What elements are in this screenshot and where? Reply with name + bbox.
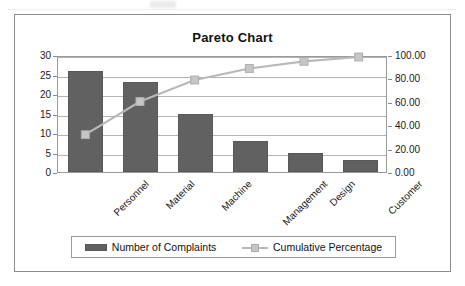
x-axis-category-labels: PersonnelMaterialMachineManagementDesign…: [15, 175, 450, 235]
line-series-cumulative-percentage: [58, 57, 386, 172]
y-right-tick-label: 60.00: [395, 98, 445, 108]
y-left-tick-label: 10: [21, 129, 51, 139]
x-axis-category-label: Machine: [220, 179, 254, 213]
cumulative-line-path: [85, 57, 358, 135]
cumulative-line-marker: [245, 65, 253, 73]
legend-item-number-of-complaints: Number of Complaints: [85, 241, 216, 253]
scan-artifact-line: [8, 9, 456, 10]
x-axis-category-label: Customer: [386, 179, 424, 217]
x-axis-category-label: Personnel: [112, 179, 151, 218]
chart-frame: Pareto Chart 051015202530 0.0020.0040.00…: [14, 14, 451, 272]
cumulative-line-marker: [136, 98, 144, 106]
scan-artifact-speck: [150, 1, 176, 8]
y-right-tick-label: 20.00: [395, 145, 445, 155]
y-right-tick: [388, 173, 392, 174]
y-right-tick: [388, 126, 392, 127]
y-left-tick-label: 25: [21, 71, 51, 81]
cumulative-line-marker: [81, 131, 89, 139]
cumulative-line-marker: [355, 53, 363, 61]
plot-area: [57, 56, 387, 173]
chart-legend: Number of Complaints Cumulative Percenta…: [71, 236, 396, 258]
legend-line-swatch-icon: [242, 243, 268, 252]
y-left-tick-label: 20: [21, 90, 51, 100]
legend-label-cumulative-percentage: Cumulative Percentage: [273, 241, 382, 253]
x-axis-category-label: Material: [164, 179, 196, 211]
y-left-tick-label: 5: [21, 149, 51, 159]
x-axis-category-label: Management: [281, 179, 329, 227]
y-right-tick: [388, 79, 392, 80]
y-right-tick-label: 40.00: [395, 121, 445, 131]
chart-title: Pareto Chart: [15, 30, 450, 45]
y-right-tick: [388, 103, 392, 104]
legend-item-cumulative-percentage: Cumulative Percentage: [242, 241, 382, 253]
legend-bar-swatch-icon: [85, 244, 107, 251]
y-left-tick-label: 15: [21, 110, 51, 120]
cumulative-line-marker: [300, 57, 308, 65]
legend-label-number-of-complaints: Number of Complaints: [112, 241, 216, 253]
y-right-tick-label: 80.00: [395, 74, 445, 84]
y-right-tick: [388, 150, 392, 151]
y-right-tick-label: 100.00: [395, 51, 445, 61]
y-right-tick: [388, 56, 392, 57]
cumulative-line-marker: [191, 76, 199, 84]
y-left-tick-label: 30: [21, 51, 51, 61]
x-axis-category-label: Design: [328, 179, 357, 208]
y-left-tick: [53, 173, 57, 174]
